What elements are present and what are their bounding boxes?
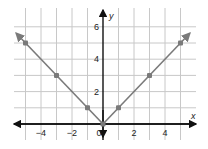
chart: xy−4−2024246 (0, 0, 208, 149)
x-tick-label: −4 (36, 128, 46, 138)
data-point (147, 73, 152, 78)
data-point (54, 73, 59, 78)
data-point (178, 41, 183, 46)
x-axis-label: x (190, 111, 196, 121)
y-axis-label: y (108, 11, 114, 21)
data-point (85, 105, 90, 110)
x-tick-label: 2 (131, 128, 136, 138)
series-line-right (103, 33, 190, 124)
series-line-left (16, 33, 103, 124)
y-tick-label: 6 (94, 22, 99, 32)
data-point (116, 105, 121, 110)
x-tick-label: 0 (96, 128, 101, 138)
x-tick-label: 4 (162, 128, 167, 138)
data-point (101, 122, 106, 127)
y-tick-label: 2 (94, 87, 99, 97)
data-point (23, 41, 28, 46)
x-tick-label: −2 (67, 128, 77, 138)
chart-svg: xy−4−2024246 (0, 0, 208, 149)
y-tick-label: 4 (94, 54, 99, 64)
